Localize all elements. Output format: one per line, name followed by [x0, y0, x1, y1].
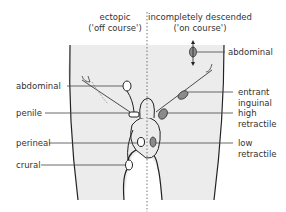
- header-ectopic: ectopic ('off course'): [86, 12, 144, 34]
- label-penile: penile: [16, 108, 42, 118]
- low-retractile-testis: [150, 137, 156, 147]
- label-inguinal: inguinal: [238, 98, 272, 108]
- abdominal-ectopic-testis: [123, 81, 131, 91]
- label-high-retractile: retractile: [238, 119, 277, 129]
- header-descended-line2: ('on course'): [148, 23, 252, 34]
- label-abdominal-ectopic: abdominal: [16, 81, 61, 91]
- label-crural: crural: [16, 160, 41, 170]
- label-low: low: [238, 138, 253, 148]
- perineal-ectopic-testis: [138, 138, 145, 147]
- label-perineal: perineal: [16, 138, 51, 148]
- label-low-retractile: retractile: [238, 149, 277, 159]
- arrow-head-up: [191, 40, 195, 44]
- label-high: high: [238, 108, 257, 118]
- header-descended-line1: incompletely descended: [148, 12, 252, 23]
- penile-ectopic-testis: [129, 112, 139, 117]
- header-ectopic-line1: ectopic: [86, 12, 144, 23]
- header-incompletely-descended: incompletely descended ('on course'): [148, 12, 252, 34]
- header-ectopic-line2: ('off course'): [86, 23, 144, 34]
- label-abdominal-undescended: abdominal: [228, 47, 273, 57]
- label-entrant: entrant: [238, 87, 269, 97]
- crural-ectopic-testis: [126, 160, 133, 170]
